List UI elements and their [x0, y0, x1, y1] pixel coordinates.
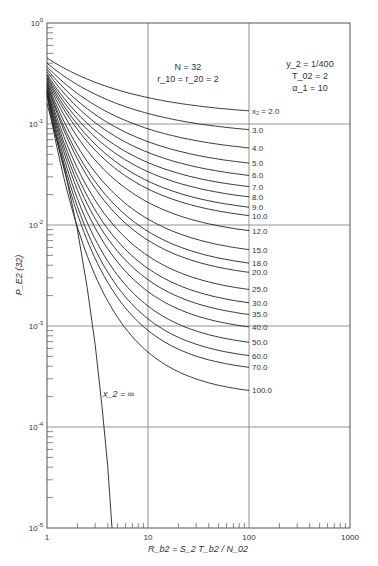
- curve-label: 7.0: [252, 183, 264, 192]
- chart-canvas: x₂ = 2.03.04.05.06.07.08.09.010.012.015.…: [0, 0, 378, 566]
- curve-label: 70.0: [252, 363, 268, 372]
- grid-lines: [47, 23, 350, 528]
- curve-label: 8.0: [252, 193, 264, 202]
- y-tick-label: 10-2: [29, 219, 44, 230]
- y-tick-label: 10-4: [29, 421, 44, 432]
- curve-label: 6.0: [252, 171, 264, 180]
- curve-label: 3.0: [252, 126, 264, 135]
- y-tick-label: 10-5: [29, 522, 44, 533]
- curve-label: 40.0: [252, 323, 268, 332]
- annotation-left: N = 32 r_10 = r_20 = 2: [157, 62, 219, 84]
- x-tick-label: 100: [242, 533, 256, 542]
- curve-label: 5.0: [252, 159, 264, 168]
- curve-label: 35.0: [252, 310, 268, 319]
- curve-label: 50.0: [252, 338, 268, 347]
- annotation-alpha: α_1 = 10: [292, 83, 327, 93]
- curve-label: 10.0: [252, 212, 268, 221]
- curve-label: 4.0: [252, 144, 264, 153]
- annotation-n: N = 32: [175, 62, 202, 72]
- curve-label: 30.0: [252, 299, 268, 308]
- x-tick-label: 1000: [341, 533, 359, 542]
- curve-label: 12.0: [252, 227, 268, 236]
- y-axis-label: P_E2 (32): [14, 255, 24, 296]
- y-tick-label: 10-3: [29, 320, 44, 331]
- curve-label: 20.0: [252, 268, 268, 277]
- curve-label: 25.0: [252, 285, 268, 294]
- annotation-right: y_2 = 1/400 T_02 = 2 α_1 = 10: [286, 59, 333, 93]
- x-tick-label: 1: [45, 533, 50, 542]
- x-tick-labels: 1101001000: [45, 533, 360, 542]
- annotation-t02: T_02 = 2: [292, 71, 328, 81]
- y-tick-labels: 10010-110-210-310-410-5: [29, 17, 44, 533]
- curve-label: 18.0: [252, 259, 268, 268]
- y-tick-label: 100: [31, 17, 44, 28]
- annotation-infinity: x_2 = ∞: [102, 389, 134, 399]
- x-axis-label: R_b2 = S_2 T_b2 / N_02: [148, 544, 248, 554]
- annotation-r: r_10 = r_20 = 2: [157, 74, 219, 84]
- plot-frame: [47, 23, 350, 528]
- curve-label: 60.0: [252, 352, 268, 361]
- curve-label: x₂ = 2.0: [252, 107, 280, 116]
- x-tick-label: 10: [144, 533, 153, 542]
- curve-labels: x₂ = 2.03.04.05.06.07.08.09.010.012.015.…: [252, 107, 280, 396]
- y-tick-label: 10-1: [29, 118, 44, 129]
- curve-label: 100.0: [252, 386, 273, 395]
- annotation-y2: y_2 = 1/400: [286, 59, 333, 69]
- curve-label: 15.0: [252, 246, 268, 255]
